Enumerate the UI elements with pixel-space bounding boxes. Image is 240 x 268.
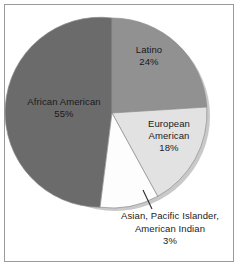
slice-label-european-american-name-line1: European <box>148 118 190 129</box>
slice-label-european-american-value: 18% <box>133 142 205 154</box>
slice-label-african-american: African American 55% <box>12 96 116 120</box>
slice-label-african-american-name: African American <box>27 96 100 107</box>
slice-label-european-american-name-line2: American <box>133 130 205 142</box>
slice-label-latino-name: Latino <box>136 44 162 55</box>
slice-label-asian-name-line1: Asian, Pacific Islander, <box>121 210 219 221</box>
slice-label-asian-name-line2: American Indian <box>104 223 236 236</box>
slice-label-latino: Latino 24% <box>116 44 182 68</box>
slice-label-asian-value: 3% <box>104 235 236 248</box>
slice-label-african-american-value: 55% <box>12 108 116 120</box>
slice-label-latino-value: 24% <box>116 56 182 68</box>
slice-label-asian-pacific-islander-american-indian: Asian, Pacific Islander, American Indian… <box>104 210 236 248</box>
slice-label-european-american: European American 18% <box>133 118 205 154</box>
pie-chart-figure: African American 55% Latino 24% European… <box>0 0 240 268</box>
